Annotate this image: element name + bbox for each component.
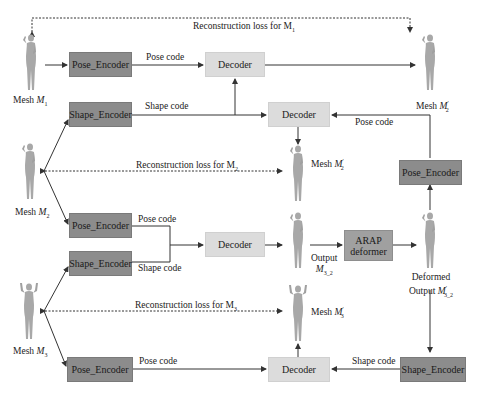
reconstruction-loss-m1: Reconstruction loss for M1 bbox=[193, 21, 295, 33]
mesh-m2-prime-mid-label: Mesh M′2 bbox=[311, 158, 344, 171]
decoder-3: Decoder bbox=[205, 232, 265, 257]
shape-encoder-1-label: Shape_Encoder bbox=[69, 109, 132, 120]
mesh-m1-label: Mesh M1 bbox=[13, 95, 47, 107]
mesh-m2pt-prefix: Mesh bbox=[416, 101, 440, 111]
mesh-m3p-sub: 3 bbox=[341, 313, 344, 319]
pose-code-label-1: Pose code bbox=[146, 52, 184, 62]
deformed-sup: ′ bbox=[446, 285, 447, 291]
pose-encoder-1-label: Pose_Encoder bbox=[72, 59, 129, 70]
decoder-2: Decoder bbox=[268, 102, 330, 127]
decoder-4-label: Decoder bbox=[282, 364, 316, 375]
pose-encoder-3: Pose_Encoder bbox=[67, 357, 133, 382]
reconstruction-loss-m2: Reconstruction loss for M2 bbox=[136, 160, 238, 172]
arap-label-line2: deformer bbox=[350, 246, 387, 257]
pose-encoder-2: Pose_Encoder bbox=[69, 213, 132, 238]
arap-label-line1: ARAP bbox=[355, 235, 382, 246]
decoder-1: Decoder bbox=[205, 52, 265, 77]
mesh-m3-figure bbox=[20, 283, 38, 339]
deformed-prefix: Output bbox=[409, 286, 438, 296]
deformed-line1: Deformed bbox=[409, 272, 453, 283]
mesh-m2-figure bbox=[22, 144, 35, 200]
loss-m3-text: Reconstruction loss for M bbox=[135, 300, 234, 310]
shape-encoder-2-label: Shape_Encoder bbox=[69, 258, 132, 269]
arap-deformer: ARAP deformer bbox=[344, 230, 393, 261]
mesh-m1-figure bbox=[23, 35, 36, 91]
pose-encoder-3-label: Pose_Encoder bbox=[71, 364, 128, 375]
mesh-m1-prefix: Mesh bbox=[13, 95, 37, 105]
shape-encoder-right-label: Shape_Encoder bbox=[402, 364, 465, 375]
decoder-2-label: Decoder bbox=[282, 109, 316, 120]
decoder-1-label: Decoder bbox=[218, 59, 252, 70]
output-line1: Output bbox=[311, 253, 337, 264]
mesh-m2-prime-top-label: Mesh M′2 bbox=[416, 100, 449, 113]
pose-encoder-right: Pose_Encoder bbox=[399, 160, 462, 185]
mesh-m3p-prefix: Mesh bbox=[311, 307, 335, 317]
deformed-line2: Output M′3_2 bbox=[409, 283, 453, 301]
mesh-m2-sub: 2 bbox=[46, 213, 49, 219]
mesh-m1-sub: 1 bbox=[44, 101, 47, 107]
mesh-m2-prime-mid-figure bbox=[290, 146, 303, 202]
mesh-m2pm-sup: ′ bbox=[342, 158, 343, 164]
shape-encoder-2: Shape_Encoder bbox=[69, 251, 132, 276]
pose-code-label-right: Pose code bbox=[355, 117, 393, 127]
mesh-m2pm-sub: 2 bbox=[341, 165, 344, 171]
pose-encoder-right-label: Pose_Encoder bbox=[402, 167, 459, 178]
loss-m1-text: Reconstruction loss for M bbox=[193, 21, 292, 31]
mesh-m2pm-prefix: Mesh bbox=[311, 159, 335, 169]
shape-code-label-2: Shape code bbox=[138, 263, 182, 273]
pose-encoder-2-label: Pose_Encoder bbox=[72, 220, 129, 231]
output-m32-figure bbox=[290, 213, 303, 269]
output-sub: 3_2 bbox=[324, 270, 333, 276]
loss-m1-sub: 1 bbox=[292, 27, 295, 33]
pose-code-label-3: Pose code bbox=[139, 356, 177, 366]
mesh-m3p-sup: ′ bbox=[342, 306, 343, 312]
mesh-m2-label: Mesh M2 bbox=[15, 207, 49, 219]
deformed-output-figure bbox=[422, 213, 435, 269]
mesh-m3-prime-figure bbox=[289, 285, 307, 341]
output-m32-label: OutputM3_2 bbox=[311, 253, 337, 279]
loss-m2-sub: 2 bbox=[235, 166, 238, 172]
pose-code-label-2: Pose code bbox=[138, 214, 176, 224]
mesh-m2pt-sub: 2 bbox=[446, 107, 449, 113]
shape-encoder-right: Shape_Encoder bbox=[400, 357, 466, 382]
loss-m2-text: Reconstruction loss for M bbox=[136, 160, 235, 170]
mesh-m3-prime-label: Mesh M′3 bbox=[311, 306, 344, 319]
mesh-m2-prime-top-figure bbox=[422, 35, 435, 91]
shape-code-label-right: Shape code bbox=[352, 356, 396, 366]
mesh-m3-label: Mesh M3 bbox=[13, 346, 47, 358]
reconstruction-loss-m3: Reconstruction loss for M3 bbox=[135, 300, 237, 312]
deformed-output-label: DeformedOutput M′3_2 bbox=[409, 272, 453, 301]
deformed-sub: 3_2 bbox=[444, 292, 453, 298]
mesh-m2pt-sup: ′ bbox=[447, 100, 448, 106]
decoder-4: Decoder bbox=[268, 357, 330, 382]
shape-encoder-1: Shape_Encoder bbox=[69, 102, 132, 127]
pose-encoder-1: Pose_Encoder bbox=[69, 52, 132, 77]
output-line2: M3_2 bbox=[311, 264, 337, 279]
shape-code-label-1: Shape code bbox=[145, 101, 189, 111]
mesh-m3-sub: 3 bbox=[44, 352, 47, 358]
mesh-m2-prefix: Mesh bbox=[15, 207, 39, 217]
output-var: M bbox=[316, 264, 324, 274]
mesh-m3-prefix: Mesh bbox=[13, 346, 37, 356]
decoder-3-label: Decoder bbox=[218, 239, 252, 250]
loss-m3-sub: 3 bbox=[234, 306, 237, 312]
